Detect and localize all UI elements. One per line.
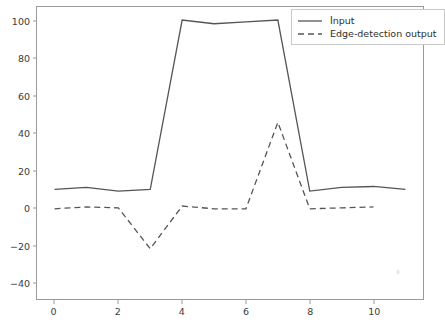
x-tick-mark bbox=[310, 300, 311, 304]
x-tick-label: 10 bbox=[368, 306, 380, 317]
chart-legend: İnput Edge-detection output bbox=[291, 9, 445, 45]
y-tick-label: 60 bbox=[18, 90, 30, 101]
y-tick-mark bbox=[33, 133, 37, 134]
x-tick-mark bbox=[374, 300, 375, 304]
y-tick-mark bbox=[33, 58, 37, 59]
y-tick-mark bbox=[33, 170, 37, 171]
y-tick-label: −20 bbox=[10, 240, 30, 251]
y-tick-label: 80 bbox=[18, 53, 30, 64]
y-tick-mark bbox=[33, 208, 37, 209]
x-tick-label: 0 bbox=[51, 306, 57, 317]
legend-label-edge-detection: Edge-detection output bbox=[330, 27, 437, 40]
x-tick-label: 6 bbox=[243, 306, 249, 317]
x-tick-mark bbox=[246, 300, 247, 304]
plot-axes-area bbox=[36, 6, 424, 300]
x-tick-label: 2 bbox=[115, 306, 121, 317]
x-tick-label: 8 bbox=[307, 306, 313, 317]
legend-swatch-solid-icon bbox=[297, 16, 323, 26]
legend-swatch-dashed-icon bbox=[297, 29, 323, 39]
faint-artifact-mark: ↡ bbox=[395, 268, 401, 276]
legend-item-input: İnput bbox=[297, 14, 437, 27]
x-tick-mark bbox=[181, 300, 182, 304]
y-tick-mark bbox=[33, 245, 37, 246]
legend-item-edge-detection: Edge-detection output bbox=[297, 27, 437, 40]
x-tick-mark bbox=[117, 300, 118, 304]
y-tick-label: −40 bbox=[10, 278, 30, 289]
series-edge-detection-line bbox=[55, 122, 374, 248]
legend-label-input: İnput bbox=[330, 14, 355, 27]
y-tick-label: 40 bbox=[18, 128, 30, 139]
plot-lines-svg bbox=[37, 7, 423, 299]
y-tick-label: 100 bbox=[12, 15, 30, 26]
y-tick-label: 20 bbox=[18, 165, 30, 176]
x-tick-label: 4 bbox=[179, 306, 185, 317]
y-tick-mark bbox=[33, 95, 37, 96]
y-tick-mark bbox=[33, 20, 37, 21]
y-tick-label: 0 bbox=[24, 203, 30, 214]
y-tick-mark bbox=[33, 283, 37, 284]
series-input-line bbox=[55, 20, 406, 191]
x-tick-mark bbox=[53, 300, 54, 304]
